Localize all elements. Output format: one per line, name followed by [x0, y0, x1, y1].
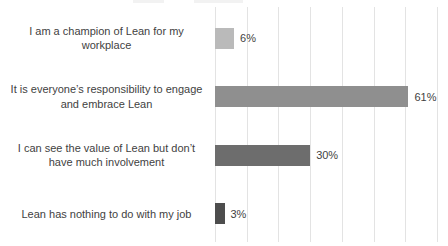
category-label: It is everyone’s responsibility to engag…: [0, 68, 215, 127]
chart-rows: I am a champion of Lean for my workplace…: [0, 9, 448, 243]
chart-row: It is everyone’s responsibility to engag…: [0, 68, 448, 127]
bar-area: 6%: [215, 9, 448, 68]
category-label: I am a champion of Lean for my workplace: [0, 9, 215, 68]
bar: [215, 86, 408, 107]
value-label: 30%: [316, 149, 338, 161]
bar-area: 3%: [215, 185, 448, 244]
bar: [215, 203, 225, 224]
bar: [215, 28, 234, 49]
value-label: 3%: [231, 208, 247, 220]
bar: [215, 145, 310, 166]
chart-row: Lean has nothing to do with my job 3%: [0, 185, 448, 244]
bar-area: 61%: [215, 68, 448, 127]
bar-area: 30%: [215, 126, 448, 185]
category-label: Lean has nothing to do with my job: [0, 185, 215, 244]
value-label: 6%: [240, 32, 256, 44]
lean-survey-bar-chart: I am a champion of Lean for my workplace…: [0, 0, 448, 246]
category-label: I can see the value of Lean but don’t ha…: [0, 126, 215, 185]
chart-row: I can see the value of Lean but don’t ha…: [0, 126, 448, 185]
value-label: 61%: [414, 91, 436, 103]
cropped-title-remnant: [133, 0, 243, 3]
chart-row: I am a champion of Lean for my workplace…: [0, 9, 448, 68]
